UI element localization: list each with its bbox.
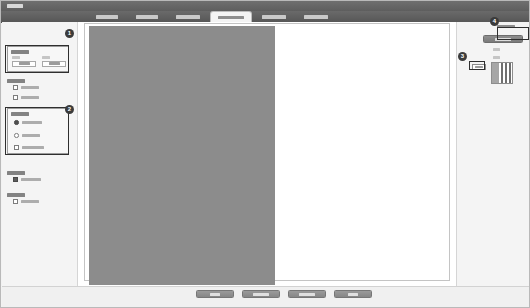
security-group-title [7,192,25,197]
tab-paper-label [136,15,158,19]
standard-quality-label [22,121,42,124]
tab-output[interactable] [297,12,335,22]
print-option-duplex[interactable] [13,85,39,90]
settings-sidebar [2,22,78,286]
cancel-button-label [348,293,358,296]
scale-checkbox[interactable] [13,95,18,100]
tab-general[interactable] [89,12,125,22]
hd-quality-label [22,134,40,137]
restore-defaults-button[interactable] [288,290,326,298]
thumbnail-stripe-2 [505,63,507,83]
tab-color[interactable] [255,12,293,22]
window-title [7,4,23,8]
tab-paper[interactable] [129,12,165,22]
restore-defaults-label [299,293,315,296]
preview-canvas[interactable] [78,22,456,286]
ok-button-label [210,293,220,296]
page-count-value [475,66,483,69]
document-content-block[interactable] [89,26,275,285]
duplex-checkbox[interactable] [13,85,18,90]
tab-advanced-label [218,16,244,20]
image-group-title [11,111,29,116]
height-field-input[interactable] [42,61,66,67]
width-field-value [19,62,30,65]
apply-settings-label [495,38,511,41]
step-badge-2: 2 [65,105,74,114]
panel-field-2-label [493,56,500,59]
image-group [7,108,69,154]
auto-layout-label [497,25,515,28]
watermark-label [21,178,41,181]
height-field-label [42,56,50,59]
print-option-scale[interactable] [13,95,39,100]
title-bar [1,1,530,11]
duplex-label [21,86,39,89]
watermark-option[interactable] [13,177,41,182]
width-field-label [12,56,20,59]
image-option-standard[interactable] [14,120,42,125]
print-group-title [7,78,25,83]
encrypt-label [21,200,39,203]
ok-button[interactable] [196,290,234,298]
tab-layout[interactable] [169,12,207,22]
apply-button-label [253,293,269,296]
apply-settings-button[interactable] [483,35,523,43]
watermark-checkbox[interactable] [13,177,18,182]
image-option-hd[interactable] [14,133,40,138]
encrypt-checkbox[interactable] [13,199,18,204]
watermark-group-title [7,170,25,175]
step-badge-4: 4 [490,17,499,26]
height-field[interactable] [42,56,66,67]
thumbnail-stripe-3 [509,63,511,83]
tab-color-label [262,15,286,19]
page-thumbnail[interactable] [491,62,513,84]
thumbnail-left-block [492,63,499,83]
tab-layout-label [176,15,200,19]
size-group [7,46,69,72]
print-group [7,76,69,104]
width-field[interactable] [12,56,36,67]
standard-quality-radio[interactable] [14,120,19,125]
custom-quality-checkbox[interactable] [14,145,19,150]
step-badge-1: 1 [65,29,74,38]
panel-field-1-label [493,48,500,51]
dialog-button-bar [2,286,530,308]
size-group-title [11,49,29,54]
hd-quality-radio[interactable] [14,133,19,138]
width-field-input[interactable] [12,61,36,67]
step-badge-3: 3 [458,52,467,61]
security-option[interactable] [13,199,39,204]
apply-button[interactable] [242,290,280,298]
height-field-value [49,62,60,65]
page-count-input[interactable] [472,64,486,70]
tab-output-label [304,15,328,19]
preview-page[interactable] [84,23,450,281]
custom-quality-label [22,146,44,149]
cancel-button[interactable] [334,290,372,298]
tab-general-label [96,15,118,19]
settings-window: 1 2 3 4 [0,0,530,308]
side-options-panel [456,22,530,286]
image-option-custom[interactable] [14,145,44,150]
scale-label [21,96,39,99]
security-group [7,190,69,208]
thumbnail-stripe-1 [501,63,503,83]
watermark-group [7,168,69,186]
